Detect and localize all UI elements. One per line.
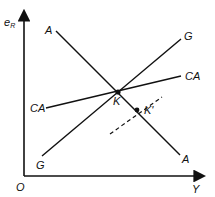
ca-line-label-start: CA xyxy=(30,102,45,114)
g-line xyxy=(42,39,181,156)
point-k-prime xyxy=(135,108,140,113)
g-line-label-end: G xyxy=(184,30,193,42)
diagram-canvas: eR O Y A A G G CA CA K K' xyxy=(0,0,215,197)
a-line-label-end: A xyxy=(181,153,189,165)
y-axis-label: eR xyxy=(4,16,15,29)
x-axis-label: Y xyxy=(192,183,200,195)
point-k-prime-label: K' xyxy=(144,104,154,116)
ca-line-label-end: CA xyxy=(185,70,200,82)
a-line-label-start: A xyxy=(44,24,52,36)
g-line-label-start: G xyxy=(36,159,45,171)
origin-label: O xyxy=(16,181,25,193)
diagram: eR O Y A A G G CA CA K K' xyxy=(0,0,215,197)
point-k xyxy=(115,89,120,94)
point-k-label: K xyxy=(113,95,121,107)
